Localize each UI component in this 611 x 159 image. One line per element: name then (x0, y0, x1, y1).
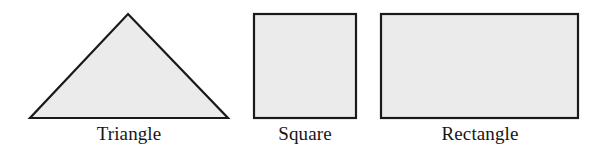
triangle-label: Triangle (29, 123, 229, 145)
triangle-shape (30, 14, 228, 118)
square-shape (254, 14, 356, 118)
rectangle-shape (381, 14, 578, 118)
shapes-figure: Triangle Square Rectangle (0, 0, 611, 159)
square-label: Square (253, 123, 357, 145)
rectangle-label: Rectangle (381, 123, 579, 145)
